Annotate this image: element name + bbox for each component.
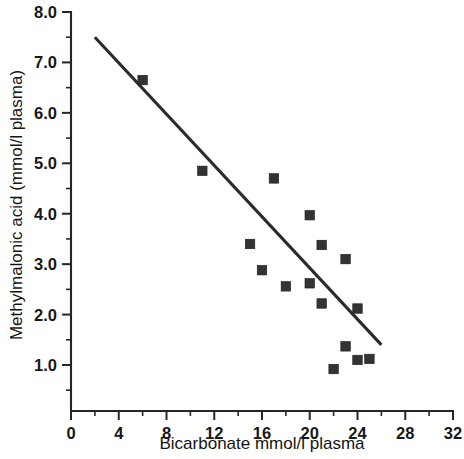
x-axis-title: Bicarbonate mmol/l plasma [159, 434, 365, 453]
data-point-marker [341, 254, 351, 264]
data-point-marker [269, 174, 279, 184]
x-axis-ticks [71, 411, 453, 420]
data-point-marker [305, 210, 315, 220]
data-point-marker [329, 364, 339, 374]
data-point-marker [317, 299, 327, 309]
data-point-marker [341, 342, 351, 352]
y-tick-label: 6.0 [34, 104, 57, 122]
y-tick-label: 4.0 [34, 205, 57, 223]
data-point-marker [353, 355, 363, 365]
scatter-plot-figure: 1.02.03.04.05.06.07.08.0 048121620242832… [0, 0, 464, 459]
data-point-marker [305, 279, 315, 289]
data-point-marker [365, 354, 375, 364]
plot-canvas: 1.02.03.04.05.06.07.08.0 048121620242832… [0, 0, 464, 459]
data-point-marker [317, 240, 327, 250]
data-point-marker [138, 75, 148, 85]
data-point-marker [281, 282, 291, 292]
y-tick-label: 2.0 [34, 306, 57, 324]
y-tick-label: 1.0 [34, 356, 57, 374]
data-point-marker [353, 304, 363, 314]
data-point-marker [257, 265, 267, 275]
x-tick-label: 28 [396, 424, 414, 442]
y-tick-label: 7.0 [34, 53, 57, 71]
x-tick-label: 32 [444, 424, 462, 442]
y-tick-label: 5.0 [34, 154, 57, 172]
x-tick-label: 0 [66, 424, 75, 442]
y-axis-ticks [62, 12, 71, 390]
x-tick-label: 4 [114, 424, 124, 442]
y-axis-tick-labels: 1.02.03.04.05.06.07.08.0 [34, 3, 57, 374]
y-tick-label: 3.0 [34, 255, 57, 273]
y-tick-label: 8.0 [34, 3, 57, 21]
data-point-marker [245, 239, 255, 249]
data-point-marker [198, 166, 208, 176]
y-axis-title: Methylmalonic acid (mmol/l plasma) [7, 70, 26, 340]
